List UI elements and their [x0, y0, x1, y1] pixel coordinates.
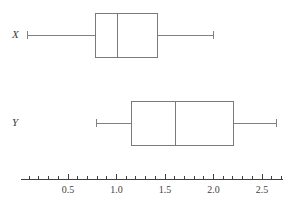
- x-axis-tick-label: 2.0: [207, 185, 220, 195]
- x-axis-tick-label: 2.5: [256, 185, 269, 195]
- series-label-y: Y: [12, 117, 18, 128]
- boxplot-canvas: [0, 0, 296, 208]
- plot-area: XY 0.51.01.52.02.5: [0, 0, 296, 208]
- box-iqr: [95, 13, 157, 57]
- x-axis-tick-label: 1.0: [110, 185, 123, 195]
- x-axis-group: [21, 174, 283, 180]
- boxplot-y: [96, 101, 276, 145]
- box-iqr: [131, 101, 234, 145]
- x-axis-tick-label: 1.5: [159, 185, 172, 195]
- boxplot-figure: XY 0.51.01.52.02.5: [0, 0, 296, 208]
- boxplot-x: [27, 13, 213, 57]
- series-label-x: X: [12, 29, 19, 40]
- boxplot-series-group: [27, 13, 276, 145]
- x-axis-tick-label: 0.5: [62, 185, 75, 195]
